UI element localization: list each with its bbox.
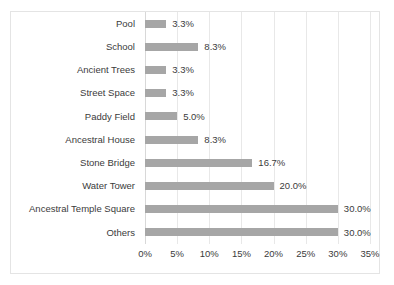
bar bbox=[145, 43, 198, 51]
x-tick-label: 25% bbox=[296, 249, 315, 259]
bar bbox=[145, 136, 198, 144]
x-tick-label: 30% bbox=[328, 249, 347, 259]
bar-chart: Pool3.3%School8.3%Ancient Trees3.3%Stree… bbox=[0, 0, 394, 285]
bar-area: 16.7% bbox=[145, 151, 370, 174]
chart-rows: Pool3.3%School8.3%Ancient Trees3.3%Stree… bbox=[0, 12, 370, 244]
bar bbox=[145, 228, 338, 236]
bar-area: 30.0% bbox=[145, 198, 370, 221]
category-label: Street Space bbox=[0, 88, 140, 98]
bar-value-label: 3.3% bbox=[172, 88, 194, 98]
chart-row: Others30.0% bbox=[0, 221, 370, 244]
bar-area: 8.3% bbox=[145, 128, 370, 151]
bar-value-label: 8.3% bbox=[204, 42, 226, 52]
bar-value-label: 30.0% bbox=[344, 204, 371, 214]
x-tick-label: 35% bbox=[360, 249, 379, 259]
x-tick-label: 0% bbox=[138, 249, 152, 259]
bar-value-label: 5.0% bbox=[183, 112, 205, 122]
bar-area: 30.0% bbox=[145, 221, 370, 244]
chart-row: School8.3% bbox=[0, 35, 370, 58]
chart-row: Water Tower20.0% bbox=[0, 174, 370, 197]
category-label: Stone Bridge bbox=[0, 158, 140, 168]
category-label: Ancient Trees bbox=[0, 65, 140, 75]
category-label: Ancestral Temple Square bbox=[0, 204, 140, 214]
chart-row: Street Space3.3% bbox=[0, 82, 370, 105]
bar bbox=[145, 66, 166, 74]
x-axis-tick-labels: 0%5%10%15%20%25%30%35% bbox=[145, 249, 370, 263]
bar-value-label: 30.0% bbox=[344, 228, 371, 238]
bar-area: 3.3% bbox=[145, 12, 370, 35]
chart-row: Ancestral Temple Square30.0% bbox=[0, 198, 370, 221]
category-label: Ancestral House bbox=[0, 135, 140, 145]
x-tick-label: 20% bbox=[264, 249, 283, 259]
chart-row: Pool3.3% bbox=[0, 12, 370, 35]
category-label: School bbox=[0, 42, 140, 52]
chart-row: Paddy Field5.0% bbox=[0, 105, 370, 128]
chart-row: Ancestral House8.3% bbox=[0, 128, 370, 151]
chart-row: Stone Bridge16.7% bbox=[0, 151, 370, 174]
bar bbox=[145, 112, 177, 120]
category-label: Water Tower bbox=[0, 181, 140, 191]
bar-value-label: 16.7% bbox=[258, 158, 285, 168]
bar-area: 3.3% bbox=[145, 82, 370, 105]
bar-value-label: 3.3% bbox=[172, 65, 194, 75]
x-tick-label: 5% bbox=[170, 249, 184, 259]
bar bbox=[145, 205, 338, 213]
bar-area: 20.0% bbox=[145, 174, 370, 197]
category-label: Paddy Field bbox=[0, 112, 140, 122]
bar bbox=[145, 89, 166, 97]
x-tick-label: 10% bbox=[200, 249, 219, 259]
chart-row: Ancient Trees3.3% bbox=[0, 58, 370, 81]
bar-value-label: 8.3% bbox=[204, 135, 226, 145]
bar-area: 8.3% bbox=[145, 35, 370, 58]
bar-area: 3.3% bbox=[145, 58, 370, 81]
category-label: Others bbox=[0, 228, 140, 238]
bar-value-label: 20.0% bbox=[280, 181, 307, 191]
bar bbox=[145, 159, 252, 167]
x-tick-label: 15% bbox=[232, 249, 251, 259]
bar-area: 5.0% bbox=[145, 105, 370, 128]
category-label: Pool bbox=[0, 19, 140, 29]
bar bbox=[145, 182, 274, 190]
bar bbox=[145, 20, 166, 28]
bar-value-label: 3.3% bbox=[172, 19, 194, 29]
